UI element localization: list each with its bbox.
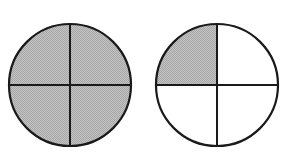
fraction-circles-diagram xyxy=(0,0,300,164)
circle-whole xyxy=(9,24,131,146)
circle-quarter xyxy=(156,24,278,146)
